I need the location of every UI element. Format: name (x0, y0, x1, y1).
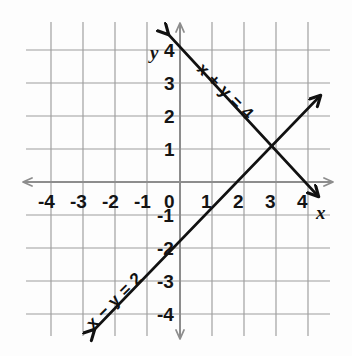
x-tick-label-neg3: -3 (70, 192, 87, 211)
y-tick-label-3: 3 (164, 74, 175, 93)
y-tick-label-neg4: -4 (157, 305, 174, 324)
x-tick-label-neg1: -1 (134, 192, 151, 211)
x-axis-letter: x (316, 203, 326, 222)
graph-canvas (0, 0, 352, 356)
y-tick-label-neg2: -2 (157, 239, 174, 258)
y-tick-label-1: 1 (164, 140, 175, 159)
coordinate-graph-figure: -4 -3 -2 -1 0 1 2 3 4 4 3 2 1 -1 -2 -3 -… (0, 0, 352, 356)
y-axis-letter: y (150, 43, 158, 62)
x-tick-label-neg4: -4 (38, 192, 55, 211)
y-tick-label-neg1: -1 (157, 206, 174, 225)
y-tick-label-neg3: -3 (157, 272, 174, 291)
x-tick-label-1: 1 (201, 192, 212, 211)
x-tick-label-neg2: -2 (102, 192, 119, 211)
x-tick-label-2: 2 (233, 192, 244, 211)
x-tick-label-4: 4 (297, 192, 308, 211)
y-tick-label-2: 2 (164, 107, 175, 126)
y-tick-label-4: 4 (164, 41, 175, 60)
grid-lines (26, 22, 330, 336)
x-tick-label-3: 3 (265, 192, 276, 211)
